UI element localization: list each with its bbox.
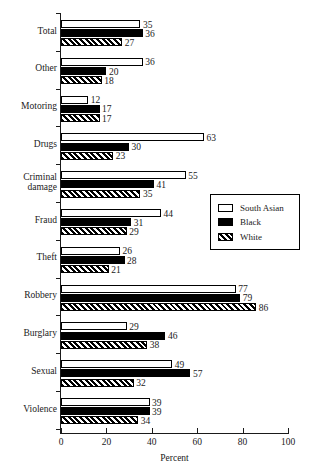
bar-white <box>61 76 102 84</box>
bar-value-label: 38 <box>150 341 160 349</box>
bar-value-label: 57 <box>193 370 203 378</box>
bar-black <box>61 332 165 340</box>
bar-white <box>61 341 147 349</box>
bar-value-label: 21 <box>111 266 121 274</box>
bar-south-asian <box>61 398 150 406</box>
bar-value-label: 86 <box>259 304 269 312</box>
bar-value-label: 35 <box>143 21 153 29</box>
bar-black <box>61 369 190 377</box>
bar-south-asian <box>61 285 236 293</box>
white-rect-icon <box>218 204 233 212</box>
bar-black <box>61 105 100 113</box>
x-axis-tick-label: 20 <box>91 437 121 448</box>
bar-value-label: 31 <box>134 219 144 227</box>
x-axis-tick-label: 0 <box>46 437 76 448</box>
bar-south-asian <box>61 360 172 368</box>
bar-black <box>61 256 125 264</box>
x-axis-line <box>60 433 289 434</box>
bar-south-asian <box>61 322 127 330</box>
legend-label: White <box>240 232 262 242</box>
bar-value-label: 18 <box>104 77 114 85</box>
bar-value-label: 55 <box>188 172 198 180</box>
bar-south-asian <box>61 20 140 28</box>
category-label: Fraud <box>0 215 57 226</box>
category-label: Sexual <box>0 366 57 377</box>
bar-value-label: 26 <box>123 247 133 255</box>
bar-south-asian <box>61 96 88 104</box>
bar-black <box>61 407 150 415</box>
bar-value-label: 77 <box>238 285 248 293</box>
bar-value-label: 27 <box>125 39 135 47</box>
bar-value-label: 44 <box>163 210 173 218</box>
legend-item-white: White <box>218 231 262 242</box>
category-label: Motoring <box>0 101 57 112</box>
category-label: Total <box>0 26 57 37</box>
category-label: Criminal damage <box>0 172 57 193</box>
bar-value-label: 32 <box>136 379 146 387</box>
bar-south-asian <box>61 247 120 255</box>
bar-value-label: 28 <box>127 257 137 265</box>
category-label: Drugs <box>0 139 57 150</box>
bar-white <box>61 152 113 160</box>
bar-black <box>61 29 143 37</box>
bar-value-label: 17 <box>102 115 112 123</box>
category-label: Other <box>0 63 57 74</box>
x-axis-tick-label: 80 <box>228 437 258 448</box>
bar-value-label: 30 <box>132 143 142 151</box>
bar-value-label: 36 <box>145 58 155 66</box>
bar-value-label: 49 <box>175 361 185 369</box>
bar-chart: 020406080100 Percent TotalOtherMotoringD… <box>0 0 311 474</box>
black-rect-icon <box>218 218 233 226</box>
bar-value-label: 36 <box>145 30 155 38</box>
bar-value-label: 23 <box>116 152 126 160</box>
bar-value-label: 29 <box>129 323 139 331</box>
legend-label: Black <box>240 217 261 227</box>
bar-white <box>61 416 138 424</box>
legend-label: South Asian <box>240 203 284 213</box>
bar-white <box>61 38 122 46</box>
bar-value-label: 63 <box>207 134 217 142</box>
bar-south-asian <box>61 58 143 66</box>
bar-white <box>61 379 134 387</box>
bar-white <box>61 265 109 273</box>
bar-value-label: 29 <box>129 228 139 236</box>
bar-value-label: 20 <box>109 68 119 76</box>
x-axis-tick <box>288 428 289 434</box>
bar-white <box>61 114 100 122</box>
bar-black <box>61 218 131 226</box>
x-axis-tick-label: 100 <box>273 437 303 448</box>
legend: South AsianBlackWhite <box>210 194 300 250</box>
bar-south-asian <box>61 133 204 141</box>
bar-value-label: 46 <box>168 332 178 340</box>
bar-white <box>61 303 256 311</box>
bar-black <box>61 67 106 75</box>
bar-black <box>61 294 240 302</box>
category-label: Violence <box>0 404 57 415</box>
bar-value-label: 12 <box>91 96 101 104</box>
category-label: Theft <box>0 252 57 263</box>
bar-south-asian <box>61 171 186 179</box>
bar-white <box>61 227 127 235</box>
bar-black <box>61 180 154 188</box>
x-axis-tick-label: 60 <box>182 437 212 448</box>
bar-value-label: 41 <box>157 181 167 189</box>
x-axis-title: Percent <box>61 453 288 463</box>
category-label: Robbery <box>0 290 57 301</box>
bar-value-label: 17 <box>102 105 112 113</box>
bar-value-label: 39 <box>152 399 162 407</box>
hatched-rect-icon <box>218 233 233 241</box>
bar-value-label: 34 <box>141 417 151 425</box>
bar-value-label: 79 <box>243 294 253 302</box>
legend-item-south-asian: South Asian <box>218 202 284 213</box>
legend-item-black: Black <box>218 217 261 228</box>
y-axis-tick <box>56 13 61 14</box>
bar-value-label: 35 <box>143 190 153 198</box>
bar-white <box>61 190 140 198</box>
bar-black <box>61 143 129 151</box>
category-label: Burglary <box>0 328 57 339</box>
bar-south-asian <box>61 209 161 217</box>
bar-value-label: 39 <box>152 408 162 416</box>
x-axis-tick-label: 40 <box>137 437 167 448</box>
